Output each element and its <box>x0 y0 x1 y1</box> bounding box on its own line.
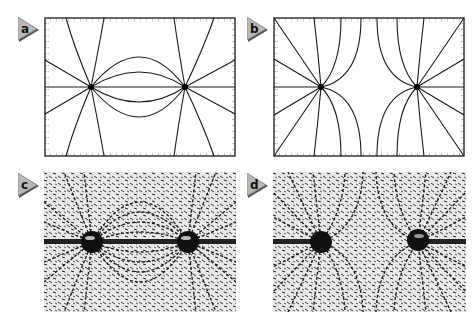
panel-label-text: d <box>250 178 259 192</box>
panel-label-a: a <box>18 17 40 43</box>
electrode-right-icon <box>177 231 199 253</box>
charge-right-icon <box>182 84 188 90</box>
panel-label-c: c <box>18 173 40 199</box>
electrode-left-icon <box>81 231 103 253</box>
electrode-left-icon <box>310 231 332 253</box>
panel-label-text: b <box>250 22 259 36</box>
panel-a-dipole-field-lines <box>44 17 236 157</box>
panel-label-text: a <box>21 22 29 36</box>
electrode-right-icon <box>407 229 429 251</box>
panel-label-b: b <box>247 17 269 43</box>
charge-left-icon <box>318 84 324 90</box>
panel-label-text: c <box>21 178 28 192</box>
panel-label-d: d <box>247 173 269 199</box>
panel-d-filings-photo-like <box>273 172 466 312</box>
charge-right-icon <box>414 84 420 90</box>
charge-left-icon <box>88 84 94 90</box>
panel-b-like-charges-field-lines <box>273 17 465 157</box>
panel-c-filings-photo-opposite <box>44 172 236 312</box>
